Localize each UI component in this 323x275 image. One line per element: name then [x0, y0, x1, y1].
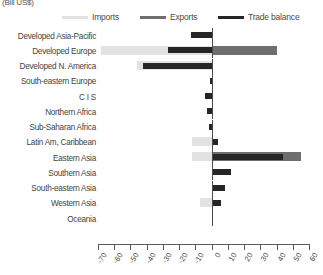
category-label: Sub-Saharan Africa — [0, 123, 96, 132]
x-axis-tick-label: 0 — [212, 251, 222, 259]
row-bars — [98, 120, 323, 135]
x-axis-tick-label: 40 — [275, 251, 287, 263]
bar-trade-balance — [212, 185, 225, 191]
row-bars — [98, 43, 323, 58]
plot-area: Developed Asia-PacificDeveloped EuropeDe… — [0, 26, 323, 244]
x-axis-tick-label: 20 — [243, 251, 255, 263]
chart-root: (Bill US$) ImportsExportsTrade balance D… — [0, 0, 323, 275]
chart-row: Sub-Saharan Africa — [0, 120, 323, 135]
x-axis-tick-label: 60 — [308, 251, 320, 263]
row-bars — [98, 59, 323, 74]
zero-line — [212, 211, 213, 226]
x-axis-tick — [260, 244, 261, 250]
x-axis-tick — [212, 244, 213, 250]
chart-row: Developed Europe — [0, 43, 323, 58]
category-label: Northern Africa — [0, 107, 96, 116]
unit-label: (Bill US$) — [2, 0, 34, 7]
zero-line — [212, 196, 213, 211]
row-bars — [98, 104, 323, 119]
legend-swatch-icon — [62, 16, 88, 19]
chart-row: Southern Asia — [0, 165, 323, 180]
zero-line — [212, 43, 213, 58]
legend-label: Trade balance — [248, 12, 299, 22]
row-bars — [98, 150, 323, 165]
x-axis-tick-label: -20 — [176, 251, 189, 265]
row-bars — [98, 74, 323, 89]
zero-line — [212, 104, 213, 119]
zero-line — [212, 59, 213, 74]
bar-imports — [192, 137, 211, 146]
legend-swatch-icon — [218, 16, 244, 19]
category-label: Southern Asia — [0, 168, 96, 177]
chart-row: Eastern Asia — [0, 150, 323, 165]
x-axis-tick-label: -50 — [128, 251, 141, 265]
bar-exports — [212, 46, 277, 55]
zero-line — [212, 120, 213, 135]
x-axis-tick-label: 10 — [226, 251, 238, 263]
bar-imports — [192, 152, 211, 161]
x-axis-tick — [309, 244, 310, 250]
category-label: Eastern Asia — [0, 153, 96, 162]
legend-swatch-icon — [140, 16, 166, 19]
x-axis-tick-label: 30 — [259, 251, 271, 263]
bar-trade-balance — [168, 47, 212, 53]
chart-row: Latin Am, Caribbean — [0, 135, 323, 150]
x-axis-tick-label: -30 — [160, 251, 173, 265]
x-axis-tick — [163, 244, 164, 250]
x-axis-tick-label: -60 — [111, 251, 124, 265]
bar-trade-balance — [205, 93, 211, 99]
legend-label: Exports — [170, 12, 197, 22]
chart-row: Western Asia — [0, 196, 323, 211]
x-axis-tick-label: -40 — [144, 251, 157, 265]
legend-item-trade-balance: Trade balance — [218, 10, 299, 24]
chart-legend: ImportsExportsTrade balance — [0, 10, 323, 24]
x-axis-tick — [130, 244, 131, 250]
zero-line — [212, 28, 213, 43]
zero-line — [212, 89, 213, 104]
bar-trade-balance — [212, 154, 283, 160]
row-bars — [98, 196, 323, 211]
bar-trade-balance — [191, 32, 212, 38]
category-label: Latin Am, Caribbean — [0, 138, 96, 147]
chart-row: Oceania — [0, 211, 323, 226]
row-bars — [98, 165, 323, 180]
x-axis-tick — [114, 244, 115, 250]
bar-trade-balance — [212, 169, 231, 175]
zero-line — [212, 135, 213, 150]
x-axis-tick — [277, 244, 278, 250]
bar-trade-balance — [212, 200, 222, 206]
legend-item-exports: Exports — [140, 10, 197, 24]
category-label: Developed Europe — [0, 46, 96, 55]
legend-item-imports: Imports — [62, 10, 119, 24]
x-axis-tick — [195, 244, 196, 250]
category-label: Developed Asia-Pacific — [0, 31, 96, 40]
x-axis-tick — [293, 244, 294, 250]
chart-row: C I S — [0, 89, 323, 104]
x-axis-tick-label: 50 — [291, 251, 303, 263]
row-bars — [98, 28, 323, 43]
chart-row: Developed N. America — [0, 59, 323, 74]
chart-row: South-eastern Europe — [0, 74, 323, 89]
category-label: Oceania — [0, 214, 96, 223]
x-axis-tick-label: -10 — [193, 251, 206, 265]
category-label: Developed N. America — [0, 62, 96, 71]
zero-line — [212, 165, 213, 180]
zero-line — [212, 181, 213, 196]
x-axis-tick — [147, 244, 148, 250]
row-bars — [98, 211, 323, 226]
chart-row: South-eastern Asia — [0, 181, 323, 196]
x-axis-tick — [228, 244, 229, 250]
category-label: Western Asia — [0, 199, 96, 208]
row-bars — [98, 135, 323, 150]
x-axis: -70-60-50-40-30-20-100102030405060 — [98, 244, 323, 274]
x-axis-tick — [244, 244, 245, 250]
bar-imports — [200, 198, 211, 207]
bar-trade-balance — [143, 63, 211, 69]
chart-row: Northern Africa — [0, 104, 323, 119]
chart-row: Developed Asia-Pacific — [0, 28, 323, 43]
zero-line — [212, 74, 213, 89]
x-axis-tick-label: -70 — [95, 251, 108, 265]
x-axis-tick — [179, 244, 180, 250]
x-axis-tick — [98, 244, 99, 250]
category-label: South-eastern Europe — [0, 77, 96, 86]
